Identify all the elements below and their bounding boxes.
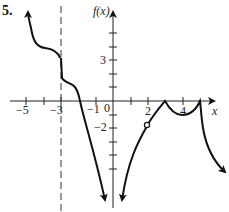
tick-label-4: 4 <box>180 105 186 117</box>
tick-label-neg1: −1 <box>87 103 100 115</box>
x-axis-label: x <box>212 105 217 117</box>
tick-label-neg5: −5 <box>16 104 29 116</box>
open-point <box>144 122 149 127</box>
curve-left-branch <box>28 12 60 58</box>
tick-label-0: 0 <box>104 102 110 114</box>
y-axis-label: f(x) <box>93 5 110 17</box>
tick-label-y3: 3 <box>100 54 106 66</box>
tick-label-2: 2 <box>145 105 151 117</box>
curve-right-branch <box>122 126 147 200</box>
problem-number: 5. <box>2 4 13 18</box>
function-graph <box>0 0 229 212</box>
tick-label-neg3: −3 <box>50 104 63 116</box>
tick-label-yneg2: −2 <box>94 121 107 133</box>
